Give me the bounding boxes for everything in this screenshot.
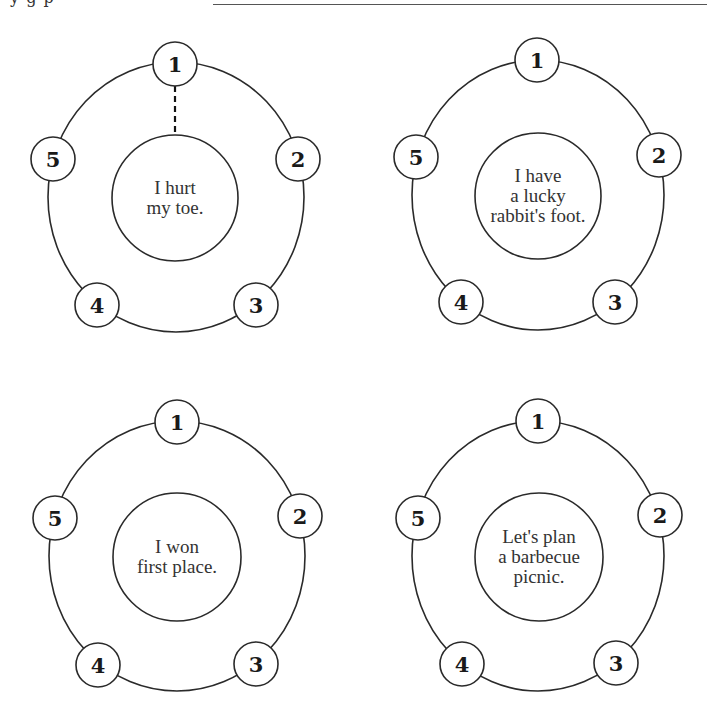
badge-3[interactable]: 3 [593,280,637,324]
badge-5[interactable]: 5 [394,135,438,179]
badge-2[interactable]: 2 [638,493,682,537]
prompt-circle-1: I hurt my toe. [112,135,238,261]
prompt-line: I won [155,537,199,557]
prompt-line: Let's plan [502,527,576,547]
prompt-circle-2: I have a lucky rabbit's foot. [475,133,601,259]
prompt-line: picnic. [513,567,564,587]
diagram-shapes [0,0,718,722]
prompt-line: a lucky [510,186,565,206]
prompt-line: first place. [137,557,217,577]
badge-5[interactable]: 5 [33,496,77,540]
prompt-line: a barbecue [498,547,580,567]
badge-2[interactable]: 2 [278,494,322,538]
prompt-circle-4: Let's plan a barbecue picnic. [475,493,603,621]
badge-5[interactable]: 5 [31,137,75,181]
badge-3[interactable]: 3 [234,642,278,686]
badge-1[interactable]: 1 [153,42,197,86]
badge-4[interactable]: 4 [75,283,119,327]
badge-4[interactable]: 4 [76,643,120,687]
badge-4[interactable]: 4 [439,280,483,324]
prompt-line: rabbit's foot. [490,206,585,226]
badge-3[interactable]: 3 [234,283,278,327]
prompt-line: I have [515,166,562,186]
badge-4[interactable]: 4 [440,642,484,686]
badge-5[interactable]: 5 [396,496,440,540]
prompt-circle-3: I won first place. [113,493,241,621]
badge-1[interactable]: 1 [516,399,560,443]
prompt-line: my toe. [147,198,204,218]
badge-1[interactable]: 1 [155,400,199,444]
badge-1[interactable]: 1 [515,38,559,82]
badge-2[interactable]: 2 [637,133,681,177]
prompt-line: I hurt [154,178,196,198]
badge-2[interactable]: 2 [276,137,320,181]
badge-3[interactable]: 3 [594,641,638,685]
